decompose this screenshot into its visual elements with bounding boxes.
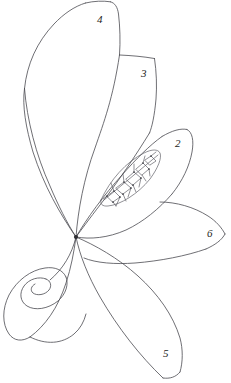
petal-4-inner-edge <box>25 89 77 238</box>
petal-4-shape <box>24 1 120 237</box>
volute-spiral <box>4 237 86 342</box>
petal-label-3: 3 <box>141 68 147 79</box>
lattice-node <box>122 193 124 195</box>
petal-3-apex <box>120 55 155 59</box>
convergence-point <box>74 235 78 239</box>
petal-4-left-edge-lower <box>24 89 76 238</box>
petal-5-lower-edge <box>76 237 163 378</box>
petal-diagram-canvas <box>0 0 231 383</box>
lattice-node <box>142 162 144 164</box>
lattice-strut-g <box>143 156 145 163</box>
lattice-strut-f <box>133 185 136 192</box>
petal-6-lower-edge <box>84 249 206 264</box>
petal-6-upper-edge <box>160 202 225 234</box>
petal-4-right-edge-upper <box>111 2 121 55</box>
lattice-node <box>123 181 125 183</box>
volute-foot-arc <box>30 314 86 342</box>
lattice-node <box>112 201 114 203</box>
lattice-node <box>106 195 108 197</box>
petal-label-5: 5 <box>163 348 169 359</box>
lattice-node <box>150 155 152 157</box>
lattice-node <box>133 171 135 173</box>
petal-3-right-edge <box>150 59 157 134</box>
petal-label-4: 4 <box>97 14 103 25</box>
petal-5-tip <box>163 372 180 378</box>
lattice-strut-h <box>142 175 146 181</box>
volute-second-turn <box>21 277 67 309</box>
petal-4-left-edge-upper <box>25 3 86 89</box>
lattice-node <box>130 187 132 189</box>
lattice-node <box>119 196 121 198</box>
lattice-diamond-4 <box>136 163 149 175</box>
lattice-strut-d <box>123 194 126 201</box>
lattice-diamond-5 <box>145 156 156 165</box>
petal-4-apex <box>86 1 111 3</box>
lattice-diamond-3 <box>126 172 141 185</box>
volute-inner-eye <box>31 279 50 295</box>
lattice-node <box>140 177 142 179</box>
lattice-strut-m <box>149 169 150 176</box>
lattice-node <box>132 184 134 186</box>
lattice-strut-n <box>151 152 156 156</box>
petal-2-upper-edge <box>76 137 162 238</box>
volute-outer-stem <box>30 237 76 337</box>
petal-3-left-edge <box>76 55 120 237</box>
petal-2-tip <box>162 129 187 136</box>
petal-label-6: 6 <box>207 228 213 239</box>
hub-dot <box>74 235 78 239</box>
lattice-node <box>113 190 115 192</box>
petal-3-shape <box>76 55 157 237</box>
lattice-node <box>148 168 150 170</box>
lattice-strut-c <box>123 174 124 182</box>
petal-label-2: 2 <box>175 138 181 149</box>
